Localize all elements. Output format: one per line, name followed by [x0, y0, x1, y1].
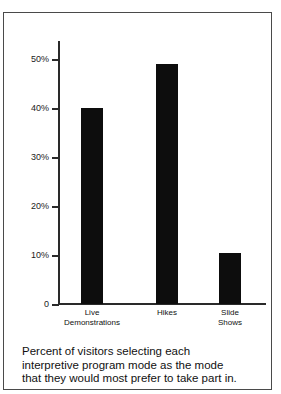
figure-caption: Percent of visitors selecting each inter…: [22, 345, 262, 386]
y-tick-mark: [52, 304, 59, 306]
caption-line-2: interpretive program mode as the mode: [22, 359, 262, 373]
bars-layer: [4, 13, 273, 304]
bar-chart-plot-area: 50%40%30%20%10%0 Live DemonstrationsHike…: [4, 13, 273, 391]
bar-2: [219, 253, 241, 304]
x-label-0: Live Demonstrations: [49, 308, 135, 327]
bar-1: [156, 64, 178, 304]
x-label-2: Slide Shows: [187, 308, 273, 327]
caption-line-1: Percent of visitors selecting each: [22, 345, 262, 359]
bar-0: [81, 108, 103, 304]
caption-line-3: that they would most prefer to take part…: [22, 372, 262, 386]
figure-frame: 50%40%30%20%10%0 Live DemonstrationsHike…: [3, 12, 272, 390]
